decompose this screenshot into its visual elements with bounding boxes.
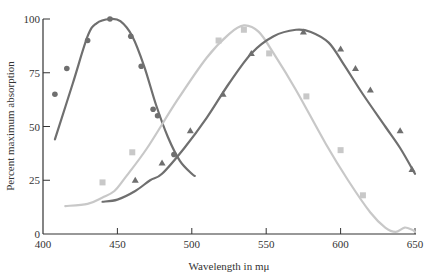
blue-cone-data-point — [107, 16, 113, 22]
x-tick-label: 600 — [332, 238, 349, 250]
y-tick-label: 25 — [29, 174, 41, 186]
axes — [43, 19, 416, 234]
green-cone-data-point — [100, 179, 106, 185]
curves — [55, 19, 415, 232]
blue-cone-data-point — [150, 107, 156, 113]
x-tick-label: 650 — [407, 238, 424, 250]
red-cone-data-point — [409, 166, 416, 172]
green-cone-data-point — [338, 147, 344, 153]
markers — [52, 16, 415, 198]
blue-cone-data-point — [52, 91, 58, 97]
red-cone-data-point — [187, 127, 194, 133]
green-cone-data-point — [360, 192, 366, 198]
y-axis-title: Percent maximum absorption — [4, 61, 16, 191]
green-cone-data-point — [303, 93, 309, 99]
red-cone-data-point — [337, 46, 344, 52]
green-cone-data-point — [216, 38, 222, 44]
red-cone-data-point — [220, 91, 227, 97]
red-cone-data-point — [352, 65, 359, 71]
y-tick-label: 50 — [29, 121, 41, 133]
x-tick-label: 500 — [184, 238, 201, 250]
blue-cone-data-point — [171, 152, 177, 158]
blue-cone-data-point — [128, 33, 134, 39]
red-cone-data-point — [367, 86, 374, 92]
y-tick-label: 100 — [24, 13, 41, 25]
blue-cone-data-point — [155, 113, 161, 119]
green-cone-curve — [65, 25, 415, 231]
x-tick-label: 450 — [109, 238, 126, 250]
x-axis-title: Wavelength in mμ — [189, 260, 270, 272]
x-tick-label: 550 — [258, 238, 275, 250]
green-cone-data-point — [266, 50, 272, 56]
blue-cone-data-point — [138, 64, 144, 70]
blue-cone-data-point — [64, 66, 70, 72]
y-tick-label: 75 — [29, 67, 41, 79]
red-cone-data-point — [159, 160, 166, 166]
y-tick-label: 0 — [35, 228, 41, 240]
absorption-chart: 4004505005506006500255075100 Wavelength … — [0, 0, 432, 277]
red-cone-curve — [103, 29, 415, 201]
green-cone-data-point — [129, 149, 135, 155]
red-cone-data-point — [397, 127, 404, 133]
green-cone-data-point — [241, 27, 247, 33]
red-cone-data-point — [132, 177, 139, 183]
blue-cone-data-point — [85, 38, 91, 44]
